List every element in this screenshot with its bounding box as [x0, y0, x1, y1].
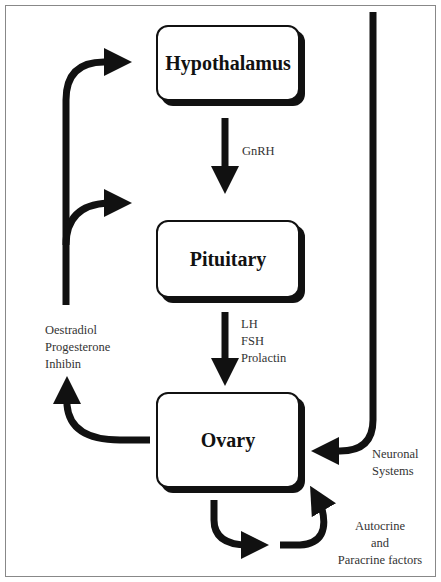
pituitary-hormones-label: LH FSH Prolactin [241, 316, 286, 367]
arrow-autocrine-in [280, 498, 324, 545]
pituitary-node: Pituitary [156, 220, 300, 298]
neuronal-systems-label: Neuronal Systems [372, 446, 419, 480]
arrow-feedback-hypothalamus [66, 62, 118, 305]
autocrine-paracrine-label: Autocrine and Paracrine factors [325, 518, 435, 569]
arrow-neuronal [325, 12, 373, 451]
arrow-ovary-feedback [67, 390, 150, 440]
hypothalamus-node: Hypothalamus [156, 25, 300, 101]
ovary-node: Ovary [156, 392, 300, 488]
gnrh-label: GnRH [242, 143, 275, 160]
arrow-feedback-pituitary [66, 203, 118, 245]
arrow-autocrine-out [214, 500, 255, 545]
ovarian-hormones-label: Oestradiol Progesterone Inhibin [45, 322, 110, 373]
